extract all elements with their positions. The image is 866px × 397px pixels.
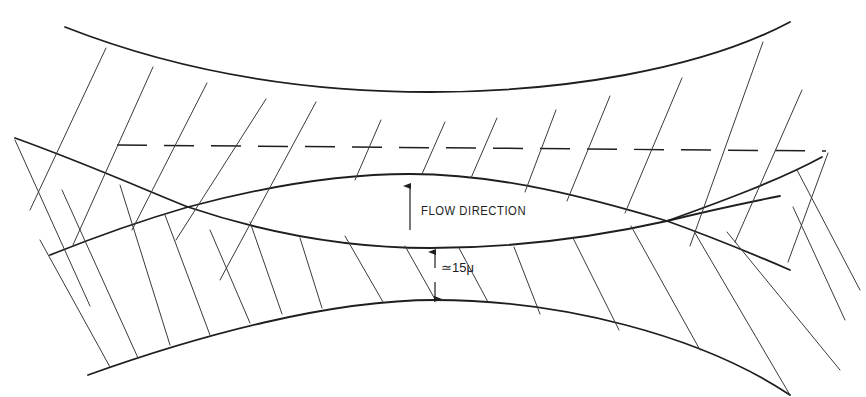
- lower-band-top-edge: [50, 174, 667, 255]
- upper-band-bottom-edge: [15, 138, 780, 248]
- upper-band-bottom-edge-tail: [667, 221, 790, 270]
- flow-direction-label: FLOW DIRECTION: [421, 204, 526, 218]
- upper-band-fibers: [30, 42, 828, 280]
- upper-band-top-edge: [65, 22, 790, 92]
- gap-size-label: ≃15μ: [441, 260, 474, 275]
- diagram-canvas: FLOW DIRECTION ≃15μ: [0, 0, 866, 397]
- fiber-layers-drawing: [0, 0, 866, 397]
- dashed-centerline: [117, 145, 826, 151]
- lower-band-bottom-edge: [88, 300, 790, 395]
- lower-band-top-edge-tail: [667, 157, 822, 221]
